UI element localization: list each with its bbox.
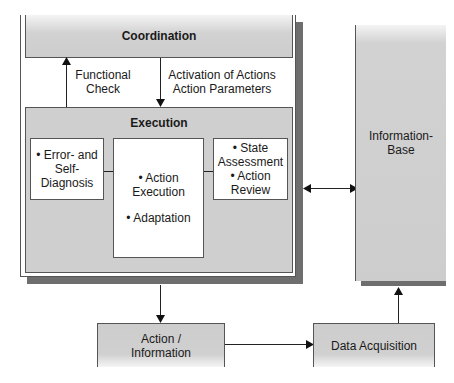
information-base-label: Information- Base — [356, 129, 446, 157]
execution-title: Execution — [26, 116, 292, 130]
label-line: Review — [231, 183, 270, 197]
arrowhead-up-icon — [394, 287, 403, 295]
label-line: • Action — [114, 171, 203, 185]
bidirectional-arrow — [306, 188, 356, 189]
action-execution-box: • Action Execution • Adaptation — [113, 138, 204, 258]
arrowhead-down-icon — [156, 99, 165, 107]
label-line: Assessment — [218, 155, 283, 169]
label-line: Check — [72, 82, 134, 96]
activation-arrow — [160, 58, 161, 101]
label-line: • Adaptation — [114, 211, 203, 225]
error-diagnosis-box: • Error- and Self-Diagnosis — [30, 138, 104, 200]
label-line: • State — [233, 141, 269, 155]
label-line: Action / — [141, 332, 181, 346]
information-base-shadow — [361, 281, 446, 286]
arrowhead-up-icon — [62, 57, 71, 65]
arrowhead-left-icon — [303, 184, 311, 193]
arrowhead-down-icon — [156, 315, 165, 323]
action-information-box: Action / Information — [97, 323, 225, 367]
functional-check-arrow — [66, 62, 67, 108]
label-line: Execution — [114, 185, 203, 199]
label-line: Activation of Actions — [166, 68, 278, 82]
label-line: Information- — [356, 129, 446, 143]
label-line: Self-Diagnosis — [31, 162, 103, 190]
data-to-infobase-arrow — [398, 292, 399, 323]
label-line: Information — [131, 346, 191, 360]
coordination-box: Coordination — [25, 15, 293, 58]
information-base-box: Information- Base — [355, 25, 446, 281]
execution-to-action-arrow — [160, 285, 161, 319]
label-line: Action Parameters — [166, 82, 278, 96]
data-acquisition-box: Data Acquisition — [313, 323, 435, 367]
activation-label: Activation of Actions Action Parameters — [166, 68, 278, 96]
functional-check-label: Functional Check — [72, 68, 134, 96]
label-line: Functional — [72, 68, 134, 82]
coordination-title: Coordination — [122, 29, 197, 43]
label-line: Base — [356, 143, 446, 157]
label-line: • Action — [230, 169, 270, 183]
label-line: • Error- and — [36, 148, 98, 162]
data-acquisition-label: Data Acquisition — [331, 339, 417, 353]
action-to-data-arrow — [225, 344, 311, 345]
state-assessment-box: • State Assessment • Action Review — [213, 138, 288, 200]
